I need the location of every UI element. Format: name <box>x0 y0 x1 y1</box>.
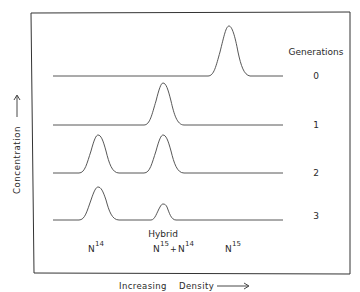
svg-text:N: N <box>153 244 160 254</box>
legend-title: Generations <box>289 47 344 57</box>
svg-text:15: 15 <box>160 240 169 248</box>
density-gradient-chart: Generations 0 1 2 3 Hybrid N 14 N 15 + N… <box>0 0 360 292</box>
generation-label-0: 0 <box>313 71 319 81</box>
svg-text:N: N <box>225 244 232 254</box>
x-axis-arrow-icon <box>217 283 249 289</box>
svg-text:14: 14 <box>185 240 194 248</box>
hybrid-label: Hybrid <box>148 229 178 239</box>
svg-text:+: + <box>170 245 177 254</box>
generation-label-2: 2 <box>313 168 319 178</box>
category-n14: N 14 <box>88 240 104 254</box>
svg-text:N: N <box>88 244 95 254</box>
x-axis-label-density: Density <box>179 281 214 291</box>
category-hybrid: N 15 + N 14 <box>153 240 194 254</box>
generation-label-1: 1 <box>313 120 319 130</box>
trace-generation-1 <box>53 83 283 125</box>
generation-label-3: 3 <box>313 211 319 221</box>
trace-generation-2 <box>53 135 283 173</box>
svg-text:14: 14 <box>95 240 104 248</box>
y-axis-label: Concentration <box>12 126 22 194</box>
svg-text:N: N <box>178 244 185 254</box>
svg-text:15: 15 <box>232 240 241 248</box>
x-axis-label: Increasing <box>119 281 167 291</box>
category-n15: N 15 <box>225 240 241 254</box>
trace-generation-3 <box>53 187 283 220</box>
trace-generation-0 <box>53 26 283 76</box>
y-axis-arrow-icon <box>14 95 20 117</box>
